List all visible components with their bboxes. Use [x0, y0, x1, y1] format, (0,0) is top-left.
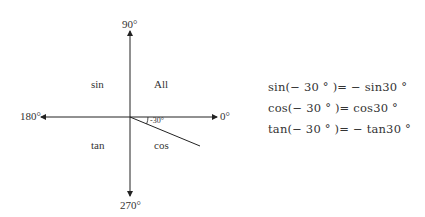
angle-arc: [147, 117, 148, 124]
label-180-degrees: 180°: [20, 110, 41, 122]
quadrant-1-label: All: [154, 78, 168, 90]
label-270-degrees: 270°: [120, 199, 141, 211]
label-0-degrees: 0°: [220, 110, 230, 122]
quadrant-2-label: sin: [91, 78, 104, 90]
equation-sin: sin(− 30 ° )= − sin30 °: [268, 80, 407, 94]
quadrant-3-label: tan: [91, 139, 104, 151]
equation-cos: cos(− 30 ° )= cos30 °: [268, 101, 398, 115]
angle-label: -30°: [150, 116, 164, 125]
equation-tan: tan(− 30 ° )= − tan30 °: [268, 122, 411, 136]
quadrant-4-label: cos: [154, 139, 169, 151]
label-90-degrees: 90°: [122, 18, 137, 30]
